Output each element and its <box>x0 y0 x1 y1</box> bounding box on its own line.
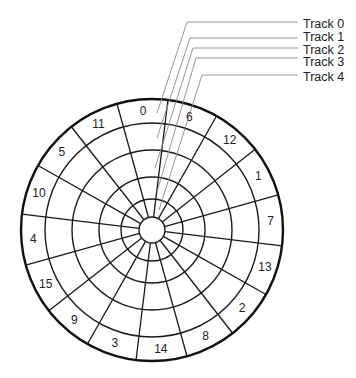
sector-boundary <box>117 104 149 218</box>
sector-boundary <box>165 232 282 246</box>
sector-boundary <box>158 116 216 219</box>
sector-boundary <box>49 238 142 311</box>
track-0-label: Track 0 <box>303 17 344 31</box>
sector-boundary <box>38 165 141 223</box>
sector-label-7: 7 <box>267 214 274 228</box>
sector-boundary <box>87 241 145 344</box>
sector-label-0: 0 <box>140 104 147 118</box>
track-3-label: Track 3 <box>303 55 344 69</box>
sector-label-5: 5 <box>59 145 66 159</box>
sector-label-10: 10 <box>32 186 46 200</box>
sector-label-14: 14 <box>154 342 168 356</box>
track-labels: Track 0Track 1Track 2Track 3Track 4 <box>303 17 344 84</box>
sector-label-8: 8 <box>202 329 209 343</box>
sector-label-11: 11 <box>92 117 105 131</box>
sector-label-1: 1 <box>255 169 262 183</box>
sector-label-9: 9 <box>71 313 78 327</box>
track-4-label: Track 4 <box>303 70 344 84</box>
sector-boundary <box>162 149 255 222</box>
track-3-leader-line <box>157 58 298 192</box>
sector-label-3: 3 <box>111 336 118 350</box>
sector-label-12: 12 <box>223 133 237 147</box>
track-leader-lines <box>155 22 298 210</box>
track-0-leader-line <box>157 22 298 113</box>
disk-diagram: 0612171328143915410511 Track 0Track 1Tra… <box>0 0 356 378</box>
sector-boundary <box>71 127 144 220</box>
sector-boundary <box>155 243 187 357</box>
spindle-hub <box>139 217 165 243</box>
sector-boundary <box>154 100 168 217</box>
sector-label-4: 4 <box>30 232 37 246</box>
sector-label-13: 13 <box>258 260 272 274</box>
sector-boundary <box>136 243 150 360</box>
sector-boundary <box>165 195 279 227</box>
sector-boundary <box>22 214 139 228</box>
sector-label-2: 2 <box>239 301 246 315</box>
sector-boundary <box>26 233 140 265</box>
track-1-label: Track 1 <box>303 30 344 44</box>
sector-boundary <box>163 236 266 294</box>
sector-label-15: 15 <box>39 277 53 291</box>
track-2-leader-line <box>155 48 298 168</box>
sector-boundary <box>160 240 233 333</box>
